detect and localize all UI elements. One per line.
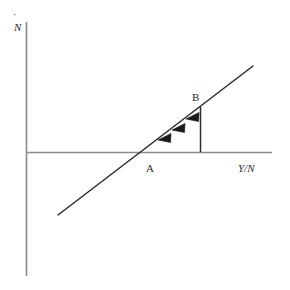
chart-background [0, 0, 290, 290]
point-a-label: A [146, 162, 154, 174]
y-axis-label-text: N [13, 21, 22, 33]
figure-root: ˙ N Y/N A B [0, 0, 290, 290]
phase-diagram-chart: ˙ N Y/N A B [0, 0, 290, 290]
point-b-label: B [192, 91, 199, 103]
x-axis-label: Y/N [238, 162, 255, 174]
